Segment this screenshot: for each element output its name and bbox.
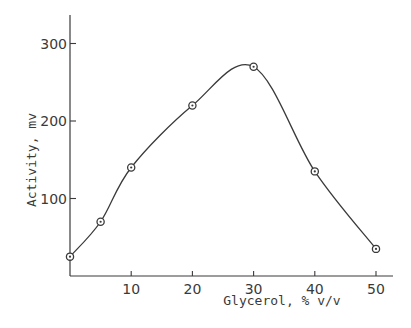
y-tick-label: 300 <box>40 36 67 52</box>
data-point <box>250 63 257 70</box>
data-point <box>372 245 379 252</box>
marker-center <box>375 248 377 250</box>
x-tick-label: 20 <box>183 281 201 297</box>
marker-center <box>314 170 316 172</box>
marker-center <box>69 256 71 258</box>
marker-center <box>253 66 255 68</box>
data-point <box>97 218 104 225</box>
x-tick-label: 50 <box>367 281 385 297</box>
x-tick-label: 10 <box>122 281 140 297</box>
y-axis-title: Activity, mv <box>24 113 39 207</box>
data-point <box>189 102 196 109</box>
y-axis: 100200300 <box>40 15 76 276</box>
activity-curve <box>70 65 376 257</box>
line-chart: 100200300 1020304050 Activity, mv Glycer… <box>0 0 411 328</box>
marker-center <box>130 166 132 168</box>
y-tick-label: 100 <box>40 191 67 207</box>
marker-center <box>191 104 193 106</box>
data-point <box>128 164 135 171</box>
y-tick-label: 200 <box>40 113 67 129</box>
marker-center <box>100 221 102 223</box>
data-markers <box>66 63 379 260</box>
data-point <box>311 168 318 175</box>
data-point <box>66 253 73 260</box>
x-axis-title: Glycerol, % v/v <box>223 293 341 308</box>
